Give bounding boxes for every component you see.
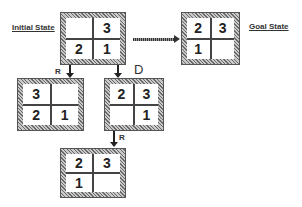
goal-state-puzzle: 2 3 1: [181, 12, 240, 65]
puzzle-tile: 1: [52, 106, 79, 126]
left-child-puzzle: 3 2 1: [17, 78, 84, 131]
puzzle-tile: 1: [135, 106, 158, 126]
move-arrow-icon: [69, 65, 71, 74]
puzzle-tile: 2: [110, 84, 133, 104]
puzzle-tile: 1: [187, 40, 210, 60]
puzzle-tile: [110, 106, 133, 126]
puzzle-tile: 2: [23, 106, 50, 126]
puzzle-tile: 1: [66, 174, 92, 192]
goal-arrow-icon: [133, 38, 175, 41]
puzzle-tile: [66, 18, 92, 38]
puzzle-tile: [212, 40, 235, 60]
puzzle-tile: 3: [212, 18, 235, 38]
move-arrow-icon: [113, 131, 115, 143]
operator-label: R: [55, 67, 61, 76]
goal-state-label: Goal State: [249, 22, 289, 31]
puzzle-tile: 2: [66, 40, 92, 60]
bottom-child-puzzle: 2 3 1: [60, 148, 126, 198]
operator-label: R: [119, 133, 125, 142]
puzzle-tile: 2: [66, 154, 92, 172]
puzzle-tile: 3: [94, 154, 120, 172]
initial-state-label: Initial State: [12, 23, 55, 32]
puzzle-tile: 3: [23, 84, 50, 104]
puzzle-tile: 3: [135, 84, 158, 104]
puzzle-tile: 1: [94, 40, 120, 60]
initial-state-puzzle: 3 2 1: [60, 12, 126, 65]
puzzle-tile: 2: [187, 18, 210, 38]
move-arrow-icon: [117, 65, 119, 74]
puzzle-tile: [52, 84, 79, 104]
right-child-puzzle: 2 3 1: [104, 78, 164, 131]
operator-label: D: [134, 62, 143, 77]
puzzle-tile: 3: [94, 18, 120, 38]
puzzle-tile: [94, 174, 120, 192]
